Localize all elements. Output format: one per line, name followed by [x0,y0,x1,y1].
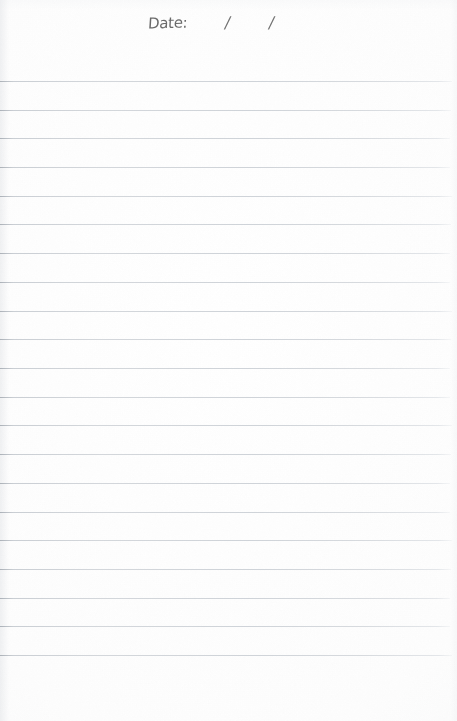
ruled-line [0,282,450,283]
notebook-page: Date: / / [0,0,457,721]
ruled-line [0,397,450,398]
ruled-lines-group [0,0,457,721]
date-field[interactable]: Date: / / [148,13,348,41]
ruled-line [0,425,452,426]
ruled-line [0,311,452,312]
ruled-line [0,368,450,369]
ruled-line [0,540,452,541]
ruled-line [0,196,452,197]
ruled-line [0,598,450,599]
ruled-line [0,626,450,627]
ruled-line [0,454,451,455]
paper-grain-overlay [0,0,457,721]
ruled-line [0,655,452,656]
ruled-line [0,167,450,168]
ruled-line [0,512,450,513]
date-label: Date: [147,14,188,33]
ruled-line [0,253,450,254]
ruled-line [0,483,450,484]
date-separator-slash-2: / [267,13,276,32]
ruled-line [0,224,451,225]
ruled-line [0,569,451,570]
paper-texture [0,0,457,721]
ruled-line [0,81,452,82]
ruled-line [0,110,451,111]
ruled-line [0,339,451,340]
date-separator-slash-1: / [224,13,233,32]
ruled-line [0,138,450,139]
